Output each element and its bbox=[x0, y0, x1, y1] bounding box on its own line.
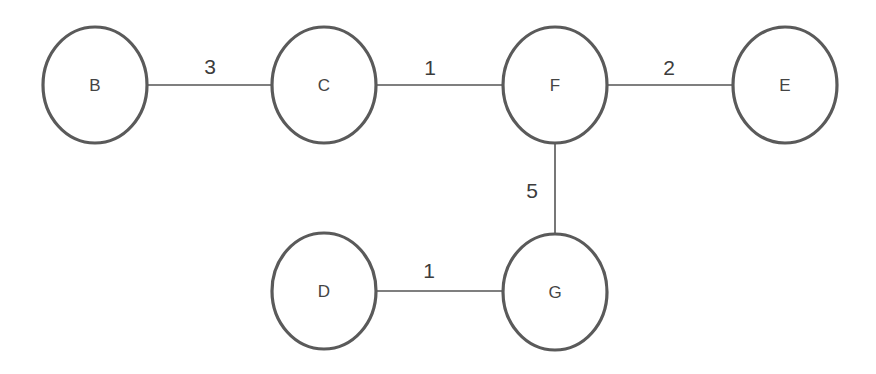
node-label: C bbox=[318, 76, 330, 95]
edge-weight-f-e: 2 bbox=[663, 56, 675, 79]
node-b: B bbox=[43, 27, 147, 143]
node-label: D bbox=[318, 282, 330, 301]
edge-weight-c-f: 1 bbox=[424, 56, 436, 79]
node-label: G bbox=[548, 283, 561, 302]
edge-weight-f-g: 5 bbox=[526, 179, 538, 202]
edges-layer bbox=[147, 85, 733, 291]
node-label: F bbox=[550, 76, 560, 95]
node-d: D bbox=[272, 233, 376, 349]
node-label: B bbox=[89, 76, 100, 95]
nodes-layer: BCFEDG bbox=[43, 27, 837, 350]
edge-weight-b-c: 3 bbox=[204, 55, 216, 78]
node-g: G bbox=[503, 234, 607, 350]
node-c: C bbox=[272, 27, 376, 143]
graph-canvas: BCFEDG 31251 bbox=[0, 0, 876, 374]
node-label: E bbox=[779, 76, 790, 95]
node-e: E bbox=[733, 27, 837, 143]
node-f: F bbox=[503, 27, 607, 143]
edge-weight-d-g: 1 bbox=[423, 259, 435, 282]
